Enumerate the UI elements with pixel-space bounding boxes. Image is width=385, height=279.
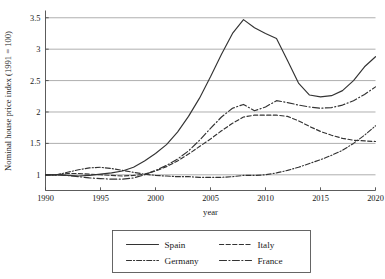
data-series-group	[46, 20, 376, 180]
y-axis-title: Nominal house price index (1991 = 100)	[3, 31, 13, 171]
legend-label-france: France	[258, 256, 283, 266]
x-tick-labels: 1990199520002005201020152020	[37, 194, 384, 203]
x-tick-label: 2020	[367, 194, 384, 203]
y-tick-label: 2.5	[30, 77, 40, 86]
y-tick-label: 3	[36, 45, 40, 54]
axis-ticks	[46, 18, 376, 191]
x-tick-label: 2015	[312, 194, 329, 203]
series-line-spain	[46, 20, 376, 176]
x-tick-label: 1995	[92, 194, 109, 203]
y-tick-label: 3.5	[30, 14, 40, 23]
x-tick-label: 2000	[147, 194, 164, 203]
y-tick-label: 1	[36, 171, 40, 180]
legend-label-germany: Germany	[165, 256, 200, 266]
line-chart-svg: 1990199520002005201020152020 11.522.533.…	[0, 0, 385, 279]
x-axis-title: year	[203, 207, 218, 217]
y-tick-labels: 11.522.533.5	[30, 14, 40, 180]
plot-frame	[46, 11, 376, 191]
chart-figure: 1990199520002005201020152020 11.522.533.…	[0, 0, 385, 279]
legend-label-spain: Spain	[165, 240, 186, 250]
x-tick-label: 2005	[202, 194, 219, 203]
y-tick-label: 2	[36, 108, 40, 117]
y-tick-label: 1.5	[30, 139, 40, 148]
chart-legend: SpainItalyGermanyFrance	[113, 231, 311, 273]
series-line-italy	[46, 115, 376, 176]
x-tick-label: 2010	[257, 194, 274, 203]
x-tick-label: 1990	[37, 194, 54, 203]
legend-label-italy: Italy	[258, 240, 275, 250]
